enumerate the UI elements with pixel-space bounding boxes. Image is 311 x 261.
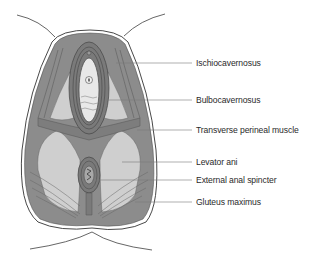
label-levator-ani: Levator ani (196, 157, 237, 167)
label-bulbocavernosus: Bulbocavernosus (196, 95, 260, 105)
urethral-meatus (88, 79, 89, 82)
vaginal-vestibule (79, 58, 99, 122)
skin-outline-top-right (124, 14, 165, 36)
label-ischiocavernosus: Ischiocavernosus (196, 58, 261, 68)
label-gluteus-maximus: Gluteus maximus (196, 197, 261, 207)
label-external-anal-spincter: External anal spincter (196, 175, 276, 185)
anococcygeal-body (86, 193, 92, 215)
skin-outline-top (17, 15, 55, 37)
label-transverse-perineal-muscle: Transverse perineal muscle (196, 125, 299, 135)
clitoris (87, 51, 91, 55)
skin-outline-bottom (30, 232, 152, 250)
